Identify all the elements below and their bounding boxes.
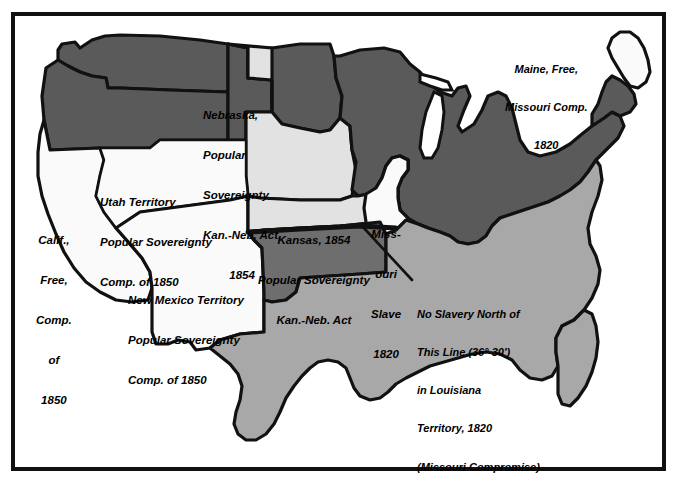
label-line: Missouri Comp. [505, 101, 588, 114]
label-line: This Line (36° 30') [417, 346, 540, 359]
label-missouri: Miss- ouri Slave 1820 [371, 201, 401, 388]
label-line: Maine, Free, [505, 63, 588, 76]
label-line: Free, [36, 274, 72, 287]
label-line: 1820 [505, 139, 588, 152]
label-line: 1820 [371, 348, 401, 361]
label-line: Comp. [36, 314, 72, 327]
historical-map-figure: Nebraska, Popular Sovereignty Kan.-Neb. … [0, 0, 679, 485]
label-line: Calif., [36, 234, 72, 247]
label-new-mexico-territory: New Mexico Territory Popular Sovereignty… [128, 267, 244, 414]
label-line: Territory, 1820 [417, 422, 540, 435]
label-maine: Maine, Free, Missouri Comp. 1820 [505, 37, 588, 177]
label-line: ouri [371, 268, 401, 281]
label-line: Popular Sovereignty [258, 274, 370, 287]
label-line: in Louisiana [417, 384, 540, 397]
label-line: New Mexico Territory [128, 294, 244, 307]
label-kansas-territory: Kansas, 1854 Popular Sovereignty Kan.-Ne… [258, 207, 370, 354]
label-line: Kansas, 1854 [258, 234, 370, 247]
label-line: (Missouri Compromise) [417, 461, 540, 474]
label-line: Slave [371, 308, 401, 321]
label-line: Utah Territory [100, 196, 212, 209]
label-line: Popular [203, 149, 281, 162]
label-line: Miss- [371, 228, 401, 241]
label-line: Comp. of 1850 [128, 374, 244, 387]
label-line: Sovereignty [203, 189, 281, 202]
label-line: Popular Sovereignty [100, 236, 212, 249]
label-line: of [36, 354, 72, 367]
label-california: Calif., Free, Comp. of 1850 [36, 207, 72, 434]
label-line: Nebraska, [203, 109, 281, 122]
label-line: No Slavery North of [417, 308, 540, 321]
label-line: 1850 [36, 394, 72, 407]
label-missouri-compromise-annotation: No Slavery North of This Line (36° 30') … [417, 282, 540, 485]
label-line: Popular Sovereignty [128, 334, 244, 347]
label-line: Kan.-Neb. Act [258, 314, 370, 327]
florida-peninsula-shape [556, 310, 598, 406]
